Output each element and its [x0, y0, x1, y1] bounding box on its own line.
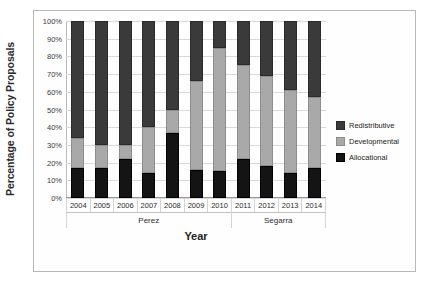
x-axis-category-labels: 2004200520062007200820092010201120122013…	[66, 198, 326, 213]
bar-segment-developmental[interactable]	[190, 81, 203, 170]
bar-segment-allocational[interactable]	[260, 166, 273, 198]
x-axis-tick-label: 2004	[66, 198, 91, 212]
bar-segment-developmental[interactable]	[284, 90, 297, 173]
chart-legend: RedistributiveDevelopmentalAllocational	[336, 121, 428, 162]
legend-item[interactable]: Redistributive	[336, 121, 428, 130]
bar-segment-developmental[interactable]	[308, 97, 321, 168]
legend-label: Allocational	[349, 153, 387, 162]
x-axis-tick-label: 2009	[185, 198, 209, 212]
bar-segment-developmental[interactable]	[95, 145, 108, 168]
stacked-bar[interactable]	[190, 21, 203, 198]
y-axis-tick-label: 20%	[28, 158, 62, 167]
bar-segment-developmental[interactable]	[213, 48, 226, 172]
bar-segment-allocational[interactable]	[142, 173, 155, 198]
stacked-bar[interactable]	[166, 21, 179, 198]
plot-area: 0%10%20%30%40%50%60%70%80%90%100%	[66, 21, 326, 198]
bar-slot	[279, 21, 303, 198]
y-axis-title: Percentage of Policy Proposals	[2, 46, 18, 196]
y-axis-tick-label: 0%	[28, 194, 62, 203]
bar-segment-developmental[interactable]	[71, 138, 84, 168]
bar-segment-redistributive[interactable]	[142, 21, 155, 127]
stacked-bar[interactable]	[260, 21, 273, 198]
stacked-bar[interactable]	[308, 21, 321, 198]
y-axis-tick-label: 40%	[28, 123, 62, 132]
bar-slot	[137, 21, 161, 198]
bar-segment-redistributive[interactable]	[166, 21, 179, 110]
bar-segment-redistributive[interactable]	[260, 21, 273, 76]
bar-segment-allocational[interactable]	[166, 133, 179, 198]
stacked-bar[interactable]	[284, 21, 297, 198]
bar-slot	[208, 21, 232, 198]
bar-segment-allocational[interactable]	[71, 168, 84, 198]
x-axis-group-bands: PerezSegarra	[66, 212, 326, 228]
y-axis-tick-label: 30%	[28, 140, 62, 149]
bar-segment-developmental[interactable]	[142, 127, 155, 173]
y-axis-tick-label: 80%	[28, 52, 62, 61]
legend-swatch-icon	[336, 153, 345, 162]
bar-segment-developmental[interactable]	[237, 65, 250, 159]
x-axis-tick-label: 2005	[91, 198, 115, 212]
x-axis-title: Year	[66, 230, 326, 242]
legend-swatch-icon	[336, 137, 345, 146]
legend-label: Redistributive	[349, 121, 394, 130]
y-axis-tick-label: 90%	[28, 34, 62, 43]
bar-segment-redistributive[interactable]	[190, 21, 203, 81]
stacked-bar[interactable]	[71, 21, 84, 198]
y-axis-tick-label: 70%	[28, 70, 62, 79]
legend-item[interactable]: Developmental	[336, 137, 428, 146]
bar-segment-allocational[interactable]	[190, 170, 203, 198]
y-axis-tick-label: 50%	[28, 105, 62, 114]
stacked-bar[interactable]	[142, 21, 155, 198]
bar-segment-developmental[interactable]	[119, 145, 132, 159]
stacked-bar[interactable]	[95, 21, 108, 198]
x-axis-group-label: Segarra	[232, 212, 326, 228]
bar-segment-redistributive[interactable]	[71, 21, 84, 138]
x-axis-tick-label: 2008	[161, 198, 185, 212]
y-axis-tick-label: 60%	[28, 87, 62, 96]
bar-segment-allocational[interactable]	[237, 159, 250, 198]
x-axis-tick-label: 2011	[232, 198, 256, 212]
bar-slot	[90, 21, 114, 198]
x-axis-tick-label: 2007	[138, 198, 162, 212]
stacked-bar[interactable]	[119, 21, 132, 198]
legend-swatch-icon	[336, 121, 345, 130]
x-axis-tick-label: 2006	[114, 198, 138, 212]
bar-slot	[231, 21, 255, 198]
bar-segment-redistributive[interactable]	[237, 21, 250, 65]
chart-page: Percentage of Policy Proposals 0%10%20%3…	[0, 0, 438, 294]
legend-item[interactable]: Allocational	[336, 153, 428, 162]
bar-slot	[113, 21, 137, 198]
bar-slot	[184, 21, 208, 198]
x-axis-group-label: Perez	[66, 212, 232, 228]
stacked-bar[interactable]	[237, 21, 250, 198]
bar-segment-redistributive[interactable]	[95, 21, 108, 145]
bar-slot	[161, 21, 185, 198]
bar-slot	[66, 21, 90, 198]
bar-slot	[255, 21, 279, 198]
bar-segment-redistributive[interactable]	[213, 21, 226, 48]
y-axis-tick-label: 100%	[28, 17, 62, 26]
x-axis-tick-label: 2010	[208, 198, 232, 212]
x-axis-tick-label: 2012	[255, 198, 279, 212]
bar-segment-redistributive[interactable]	[284, 21, 297, 90]
bar-segment-developmental[interactable]	[260, 76, 273, 166]
bar-segment-redistributive[interactable]	[308, 21, 321, 97]
bar-segment-allocational[interactable]	[308, 168, 321, 198]
bar-segment-allocational[interactable]	[213, 171, 226, 198]
bar-segment-allocational[interactable]	[119, 159, 132, 198]
bar-segment-allocational[interactable]	[284, 173, 297, 198]
x-axis-tick-label: 2013	[279, 198, 303, 212]
x-axis-tick-label: 2014	[302, 198, 326, 212]
bar-slot	[302, 21, 326, 198]
y-axis-tick-label: 10%	[28, 176, 62, 185]
bar-segment-developmental[interactable]	[166, 110, 179, 133]
stacked-bar[interactable]	[213, 21, 226, 198]
legend-label: Developmental	[349, 137, 399, 146]
bar-segment-redistributive[interactable]	[119, 21, 132, 145]
bar-group	[66, 21, 326, 198]
bar-segment-allocational[interactable]	[95, 168, 108, 198]
